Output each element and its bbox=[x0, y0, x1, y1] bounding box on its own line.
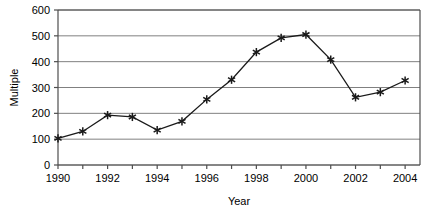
x-tick-label: 2004 bbox=[393, 172, 417, 184]
x-tick-label: 1992 bbox=[95, 172, 119, 184]
y-axis-title: Multiple bbox=[8, 69, 20, 107]
y-tick-label: 600 bbox=[32, 4, 50, 16]
y-tick-label: 300 bbox=[32, 82, 50, 94]
x-tick-label: 2002 bbox=[343, 172, 367, 184]
y-tick-label: 0 bbox=[44, 159, 50, 171]
x-tick-label: 1996 bbox=[195, 172, 219, 184]
y-tick-label: 100 bbox=[32, 133, 50, 145]
y-tick-label: 400 bbox=[32, 56, 50, 68]
x-tick-label: 1994 bbox=[145, 172, 169, 184]
y-tick-label: 200 bbox=[32, 107, 50, 119]
line-chart: 0100200300400500600 19901992199419961998… bbox=[0, 0, 432, 213]
y-tick-label: 500 bbox=[32, 30, 50, 42]
x-tick-label: 2000 bbox=[294, 172, 318, 184]
chart-canvas: 0100200300400500600 19901992199419961998… bbox=[0, 0, 432, 213]
x-tick-label: 1990 bbox=[46, 172, 70, 184]
x-axis-title: Year bbox=[228, 195, 251, 207]
x-tick-label: 1998 bbox=[244, 172, 268, 184]
